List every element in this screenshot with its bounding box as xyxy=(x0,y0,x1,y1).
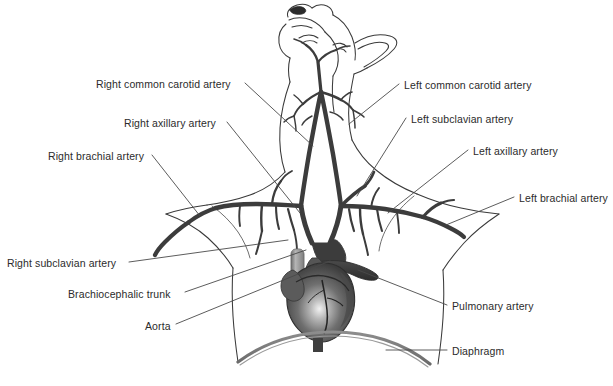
label-right-subclavian-artery: Right subclavian artery xyxy=(7,257,116,269)
artery-facial-branch xyxy=(306,45,318,62)
leader-left-brachial xyxy=(446,197,514,225)
label-left-common-carotid-artery: Left common carotid artery xyxy=(404,79,531,91)
leader-pulmonary-artery xyxy=(358,270,447,305)
leader-right-axillary xyxy=(227,122,300,213)
artery-right-axillary xyxy=(189,208,216,222)
artery-right-subclavian xyxy=(216,204,301,208)
leader-left-subclavian xyxy=(357,118,406,196)
leader-left-common-carotid xyxy=(349,84,399,124)
label-right-axillary-artery: Right axillary artery xyxy=(124,117,216,129)
leader-right-subclavian xyxy=(129,240,288,262)
anatomy-figure: Right common carotid artery Right axilla… xyxy=(0,0,613,386)
leader-left-axillary xyxy=(388,150,468,213)
artery-left-common-carotid xyxy=(321,92,341,206)
artery-right-brachial xyxy=(155,222,189,255)
label-right-brachial-artery: Right brachial artery xyxy=(48,150,144,162)
label-pulmonary-artery: Pulmonary artery xyxy=(452,300,534,312)
leader-right-brachial xyxy=(152,155,200,216)
label-left-subclavian-artery: Left subclavian artery xyxy=(411,113,513,125)
artery-left-axillary xyxy=(341,206,423,217)
label-brachiocephalic-trunk: Brachiocephalic trunk xyxy=(68,288,171,300)
leader-right-common-carotid xyxy=(245,83,313,146)
label-aorta: Aorta xyxy=(145,320,171,332)
label-left-axillary-artery: Left axillary artery xyxy=(473,145,558,157)
arterial-tree xyxy=(155,39,464,255)
label-left-brachial-artery: Left brachial artery xyxy=(519,192,608,204)
artery-right-common-carotid xyxy=(301,92,321,206)
label-diaphragm: Diaphragm xyxy=(452,345,504,357)
label-right-common-carotid-artery: Right common carotid artery xyxy=(96,78,231,90)
